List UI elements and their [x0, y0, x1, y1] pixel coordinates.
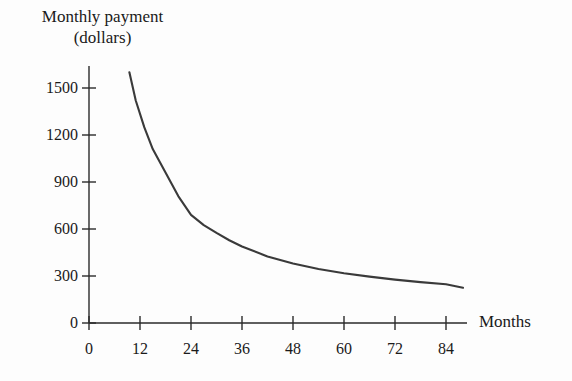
chart-container: Monthly payment (dollars) Months 1500 12…	[0, 0, 572, 381]
plot-area	[0, 0, 572, 381]
data-series-curve	[129, 72, 463, 287]
